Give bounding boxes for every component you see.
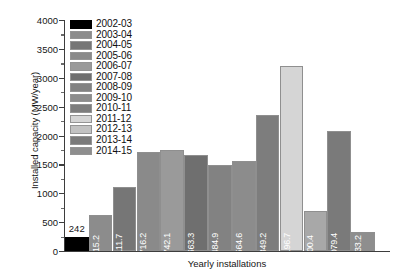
y-axis-minor-tick: [61, 208, 64, 209]
x-axis-title: Yearly installations: [64, 258, 390, 269]
legend-item-label: 2013-14: [96, 135, 132, 146]
bar-2012-13[interactable]: 700.4: [304, 211, 328, 251]
bar-value-label: 700.4: [305, 235, 315, 257]
bar-2002-03[interactable]: 242: [65, 237, 89, 251]
bar-value-label: 2079.4: [329, 233, 339, 259]
legend-item-label: 2014-15: [96, 146, 132, 157]
legend-item-2013-14[interactable]: 2013-14: [70, 135, 132, 146]
legend-swatch-icon: [70, 62, 92, 71]
bar-2011-12[interactable]: 3196.7: [280, 66, 304, 251]
chart-legend: 2002-032003-042004-052005-062006-072007-…: [70, 19, 132, 156]
legend-swatch-icon: [70, 73, 92, 82]
y-axis-minor-tick: [61, 179, 64, 180]
legend-swatch-icon: [70, 41, 92, 50]
legend-swatch-icon: [70, 31, 92, 40]
bar-2004-05[interactable]: 1111.7: [113, 187, 137, 251]
bar-2008-09[interactable]: 1484.9: [208, 165, 232, 251]
y-axis-major-tick: [59, 164, 64, 165]
bar-value-label: 1716.2: [138, 233, 148, 259]
bar-2007-08[interactable]: 1663.3: [184, 155, 208, 251]
y-axis-major-tick: [59, 20, 64, 21]
y-axis-major-tick: [59, 78, 64, 79]
y-axis-tick-label: 1500: [20, 159, 58, 170]
bar-value-label: 1111.7: [114, 234, 124, 258]
y-axis-tick-label: 0: [20, 246, 58, 257]
bar-value-label: 1564.6: [234, 233, 244, 259]
legend-swatch-icon: [70, 20, 92, 29]
bar-value-label: 615.2: [91, 235, 101, 257]
bar-2014-15[interactable]: 333.2: [351, 232, 375, 251]
y-axis-major-tick: [59, 222, 64, 223]
y-axis-minor-tick: [61, 237, 64, 238]
bar-2013-14[interactable]: 2079.4: [327, 131, 351, 251]
legend-item-2002-03[interactable]: 2002-03: [70, 19, 132, 30]
legend-item-2014-15[interactable]: 2014-15: [70, 146, 132, 157]
y-axis-tick-label: 3000: [20, 72, 58, 83]
y-axis-major-tick: [59, 107, 64, 108]
bar-value-label: 1484.9: [210, 233, 220, 259]
legend-swatch-icon: [70, 52, 92, 61]
y-axis-minor-tick: [61, 121, 64, 122]
legend-item-label: 2002-03: [96, 19, 132, 30]
y-axis-tick-label: 4000: [20, 15, 58, 26]
legend-swatch-icon: [70, 94, 92, 103]
legend-swatch-icon: [70, 115, 92, 124]
bar-2003-04[interactable]: 615.2: [89, 215, 113, 251]
legend-swatch-icon: [70, 125, 92, 134]
y-axis-major-tick: [59, 193, 64, 194]
bar-value-label: 1742.1: [162, 233, 172, 259]
y-axis-major-tick: [59, 49, 64, 50]
y-axis-tick-label: 3500: [20, 43, 58, 54]
legend-swatch-icon: [70, 83, 92, 92]
bar-value-label: 2349.2: [258, 233, 268, 259]
bar-2009-10[interactable]: 1564.6: [232, 161, 256, 251]
y-axis-tick-label: 2000: [20, 130, 58, 141]
bar-value-label: 1663.3: [186, 233, 196, 259]
bar-2005-06[interactable]: 1716.2: [137, 152, 161, 251]
legend-swatch-icon: [70, 136, 92, 145]
bar-chart: Installed capacity (MW/year) 05001000150…: [0, 0, 409, 279]
legend-swatch-icon: [70, 147, 92, 156]
y-axis-minor-tick: [61, 34, 64, 35]
y-axis-tick-label: 1000: [20, 188, 58, 199]
bar-value-label: 333.2: [353, 235, 363, 257]
bar-value-label: 242: [69, 223, 85, 234]
bar-2010-11[interactable]: 2349.2: [256, 115, 280, 251]
y-axis-minor-tick: [61, 150, 64, 151]
y-axis-tick-label: 500: [20, 217, 58, 228]
y-axis-tick-label: 2500: [20, 101, 58, 112]
y-axis-major-tick: [59, 136, 64, 137]
y-axis-minor-tick: [61, 92, 64, 93]
y-axis-minor-tick: [61, 63, 64, 64]
legend-swatch-icon: [70, 104, 92, 113]
bar-value-label: 3196.7: [282, 233, 292, 259]
bar-2006-07[interactable]: 1742.1: [160, 150, 184, 251]
x-axis-line: [64, 251, 390, 252]
y-axis-tick-labels: 05001000150020002500300035004000: [20, 14, 58, 258]
